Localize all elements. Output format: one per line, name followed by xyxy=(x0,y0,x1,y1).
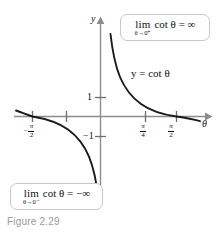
x-tick-label-pi-over-2: π 2 xyxy=(168,123,174,139)
curve-equation-label: y = cot θ xyxy=(131,68,170,79)
fraction-numerator: π xyxy=(29,123,35,130)
curve-label-equals: = xyxy=(137,67,149,79)
fraction: π 4 xyxy=(140,123,146,139)
minus-sign: − xyxy=(24,127,28,135)
fraction-denominator: 4 xyxy=(140,132,146,139)
limit-left-callout: lim θ→0⁻ cot θ = −∞ xyxy=(10,183,103,210)
theta-axis-label: θ xyxy=(202,119,207,129)
limit-operator: lim θ→0⁺ xyxy=(135,19,152,36)
y-tick-label-negative-one: −1 xyxy=(83,131,94,141)
fraction-denominator: 2 xyxy=(168,132,174,139)
limit-right-callout: lim θ→0⁺ cot θ = ∞ xyxy=(120,14,210,41)
curve-label-rhs: cot θ xyxy=(148,67,169,79)
fraction: π 2 xyxy=(168,123,174,139)
fraction-numerator: π xyxy=(140,123,146,130)
limit-right-body: cot θ = ∞ xyxy=(154,19,195,30)
figure-container: y θ 1 −1 − π 2 π 4 π 2 y = cot θ xyxy=(0,0,216,238)
y-axis-label: y xyxy=(91,14,95,24)
figure-caption: Figure 2.29 xyxy=(7,216,60,227)
limit-operator: lim θ→0⁻ xyxy=(23,188,40,205)
x-tick-label-pi-over-4: π 4 xyxy=(140,123,146,139)
fraction: π 2 xyxy=(28,123,34,139)
limit-operator-subscript: θ→0⁺ xyxy=(135,30,152,37)
limit-operator-subscript: θ→0⁻ xyxy=(23,199,40,206)
x-tick-label-negative-pi-over-2: − π 2 xyxy=(24,123,34,139)
y-tick-label-one: 1 xyxy=(87,92,92,102)
limit-right-expression: lim θ→0⁺ cot θ = ∞ xyxy=(135,19,196,36)
fraction-denominator: 2 xyxy=(29,132,35,139)
limit-left-expression: lim θ→0⁻ cot θ = −∞ xyxy=(23,188,90,205)
y-axis-arrowhead xyxy=(97,17,105,25)
fraction-numerator: π xyxy=(168,123,174,130)
limit-left-body: cot θ = −∞ xyxy=(43,188,90,199)
